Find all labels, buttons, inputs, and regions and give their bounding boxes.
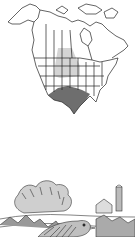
landscape-sketch [0,165,135,237]
breeding-range-region [54,48,80,78]
range-map: North America range map [0,0,135,120]
bird-landscape-illustration: Pen-and-ink bird in farmland landscape w… [0,165,135,237]
north-america-map [0,0,135,120]
